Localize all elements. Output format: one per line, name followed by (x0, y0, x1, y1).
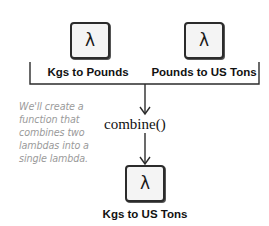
lambda-box-pounds-to-us-tons: λ (184, 22, 224, 59)
lambda-icon: λ (85, 32, 95, 49)
label-kgs-to-us-tons: Kgs to US Tons (103, 209, 188, 221)
lambda-icon: λ (199, 32, 209, 49)
label-kgs-to-pounds: Kgs to Pounds (47, 67, 128, 79)
annotation-line: We'll create a (19, 100, 99, 113)
diagram-canvas: λ Kgs to Pounds λ Pounds to US Tons comb… (0, 0, 269, 226)
annotation-line: function that (19, 113, 99, 126)
lambda-icon: λ (140, 175, 150, 192)
annotation-note: We'll create a function that combines tw… (19, 100, 99, 165)
label-pounds-to-us-tons: Pounds to US Tons (151, 67, 256, 79)
lambda-box-kgs-to-us-tons: λ (125, 165, 165, 202)
combine-function-label: combine() (104, 117, 166, 132)
annotation-line: single lambda. (19, 152, 99, 165)
annotation-line: lambdas into a (19, 139, 99, 152)
lambda-box-kgs-to-pounds: λ (70, 22, 110, 59)
annotation-line: combines two (19, 126, 99, 139)
